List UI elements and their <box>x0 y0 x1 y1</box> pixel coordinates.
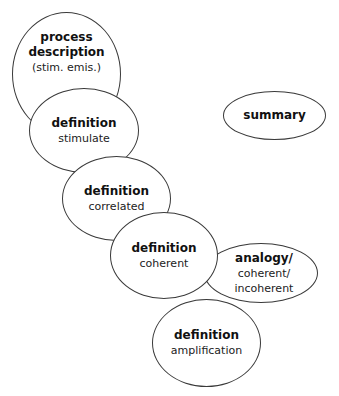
node-title: definition <box>52 116 117 131</box>
node-title: definition <box>174 328 239 343</box>
node-title: analogy/ <box>235 251 293 266</box>
definition-amplification-node: definition amplification <box>152 299 261 387</box>
node-subtitle: (stim. emis.) <box>32 60 101 75</box>
node-title: summary <box>243 108 306 123</box>
node-subtitle-line: incoherent <box>235 281 294 296</box>
definition-coherent-node: definition coherent <box>110 212 218 299</box>
analogy-node: analogy/ coherent/ incoherent <box>204 243 318 303</box>
node-title-line: description <box>28 45 104 60</box>
node-title: definition <box>84 184 149 199</box>
node-subtitle: stimulate <box>58 131 110 146</box>
summary-node: summary <box>223 91 326 140</box>
node-title-line: process <box>40 30 92 45</box>
node-title: definition <box>132 241 197 256</box>
node-subtitle-line: coherent/ <box>238 266 291 281</box>
node-subtitle: correlated <box>88 199 144 214</box>
node-subtitle: coherent <box>140 256 189 271</box>
node-subtitle: amplification <box>171 343 242 358</box>
